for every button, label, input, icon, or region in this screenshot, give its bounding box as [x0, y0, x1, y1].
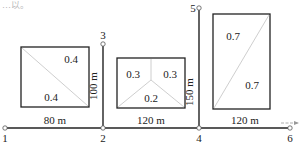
node-6: 6 — [287, 126, 293, 144]
cropped-header-text: …以。 — [2, 0, 29, 10]
node-label: 3 — [100, 29, 106, 41]
node-circle-icon — [197, 126, 201, 130]
node-3: 3 — [100, 29, 106, 46]
runoff-coefficient: 0.7 — [226, 30, 240, 42]
node-circle-icon — [101, 42, 105, 46]
runoff-coefficient: 0.7 — [245, 79, 259, 91]
runoff-coefficient: 0.4 — [64, 53, 78, 65]
area-middle-block: 0.3 0.3 0.2 — [117, 58, 185, 108]
node-label: 1 — [2, 132, 8, 144]
node-2: 2 — [100, 126, 106, 144]
runoff-coefficient: 0.3 — [126, 68, 140, 80]
node-circle-icon — [288, 126, 292, 130]
node-label: 5 — [190, 2, 196, 14]
segment-length-4-6: 120 m — [231, 114, 259, 126]
node-circle-icon — [3, 126, 7, 130]
runoff-coefficient: 0.3 — [163, 68, 177, 80]
flow-arrow-icon — [281, 121, 299, 125]
node-circle-icon — [197, 6, 201, 10]
area-left-block: 0.4 0.4 — [21, 47, 89, 107]
segment-length-2-4: 120 m — [137, 114, 165, 126]
node-label: 6 — [287, 132, 293, 144]
node-label: 2 — [100, 132, 106, 144]
node-label: 4 — [196, 132, 202, 144]
pipe-network-diagram: …以。 1 2 3 4 5 6 80 m 120 m 120 m 100 m 1… — [0, 0, 302, 148]
runoff-coefficient: 0.2 — [144, 92, 158, 104]
segment-length-1-2: 80 m — [44, 114, 67, 126]
node-1: 1 — [2, 126, 8, 144]
area-right-block: 0.7 0.7 — [213, 14, 270, 109]
node-circle-icon — [101, 126, 105, 130]
node-4: 4 — [196, 126, 202, 144]
area-divider — [214, 15, 269, 108]
runoff-coefficient: 0.4 — [44, 91, 58, 103]
